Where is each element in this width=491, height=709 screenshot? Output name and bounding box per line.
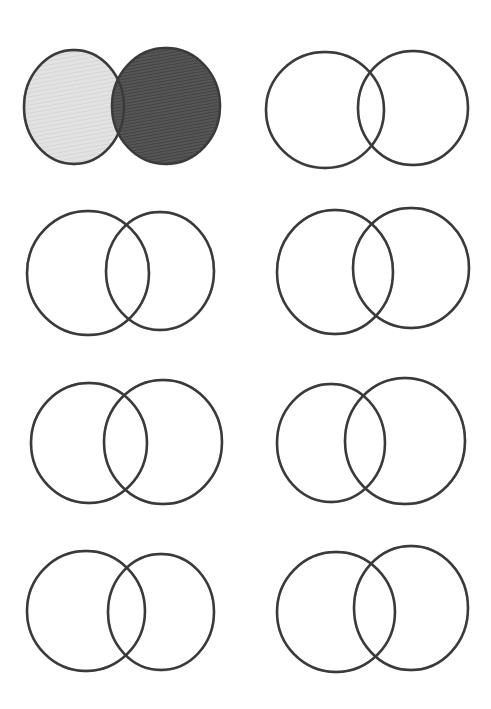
venn-diagram xyxy=(277,546,468,672)
right-circle xyxy=(345,378,465,504)
venn-diagram xyxy=(277,208,469,334)
venn-diagram xyxy=(31,380,222,504)
left-circle xyxy=(266,52,384,168)
venn-diagrams-layer xyxy=(24,48,469,672)
left-circle xyxy=(277,384,385,502)
right-circle xyxy=(358,51,468,165)
left-circle xyxy=(277,552,395,672)
right-circle xyxy=(353,208,469,328)
left-circle xyxy=(27,551,145,671)
right-circle xyxy=(108,554,214,670)
left-circle xyxy=(27,211,149,335)
venn-diagram xyxy=(27,551,214,671)
right-circle xyxy=(106,212,214,330)
left-circle xyxy=(31,383,147,503)
venn-diagram xyxy=(27,211,214,335)
right-circle xyxy=(104,380,222,504)
venn-sketch-sheet xyxy=(0,0,491,709)
venn-diagram xyxy=(24,48,220,164)
venn-diagram xyxy=(266,51,468,168)
right-circle xyxy=(354,546,468,670)
venn-diagram xyxy=(277,378,465,504)
